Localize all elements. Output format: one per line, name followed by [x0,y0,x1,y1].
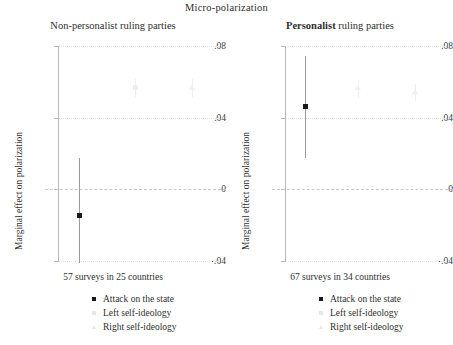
y-axis-label-right: Marginal effect on polarization [241,132,251,250]
y-axis-line-left [58,46,59,262]
legend-item-right-ideology-right: Right self-ideology [227,320,453,334]
panel-title-right: Personalist ruling parties [227,20,453,31]
marker-right-attack-on-the-state [303,104,308,109]
gridline-right-m004 [286,261,453,263]
legend-item-left-ideology-left: Left self-ideology [0,306,226,320]
legend-item-left-ideology-right: Left self-ideology [227,306,453,320]
legend-label-attack-right: Attack on the state [330,294,401,304]
gridline-right-004 [286,118,453,120]
legend-label-left-ideology-left: Left self-ideology [103,308,171,318]
legend-label-attack-left: Attack on the state [103,294,174,304]
legend-square-light-icon [92,311,96,315]
legend-triangle-light-icon [92,325,96,329]
legend-label-right-ideology-right: Right self-ideology [330,322,404,332]
panel-title-right-rest: ruling parties [336,20,394,31]
legend-label-right-ideology-left: Right self-ideology [103,322,177,332]
gridline-right-008 [286,46,453,48]
error-bar-left-attack [79,158,80,263]
panel-footnote-right: 67 surveys in 34 countries [227,272,453,282]
gridline-left-004 [59,118,226,120]
legend-item-attack-left: Attack on the state [0,292,226,306]
panel-title-left-text: Non-personalist ruling parties [50,20,175,31]
legend-square-dark-icon [319,297,323,301]
legend-square-light-icon [319,311,323,315]
zero-reference-line-right [272,189,453,190]
panel-non-personalist: Non-personalist ruling parties Marginal … [0,0,226,345]
gridline-left-m004 [59,261,226,263]
marker-right-right-self-ideology [412,89,418,94]
panel-title-right-bold: Personalist [286,20,336,31]
legend-right: Attack on the state Left self-ideology R… [227,292,453,334]
panel-title-left: Non-personalist ruling parties [0,20,226,31]
y-axis-label-left: Marginal effect on polarization [14,132,24,250]
zero-reference-line-left [45,189,226,190]
panel-footnote-left: 57 surveys in 25 countries [0,272,226,282]
marker-left-attack-on-the-state [77,213,82,218]
legend-left: Attack on the state Left self-ideology R… [0,292,226,334]
marker-left-left-self-ideology [133,85,138,90]
legend-item-right-ideology-left: Right self-ideology [0,320,226,334]
legend-label-left-ideology-right: Left self-ideology [330,308,398,318]
marker-left-right-self-ideology [189,85,195,90]
y-axis-line-right [285,46,286,262]
legend-item-attack-right: Attack on the state [227,292,453,306]
panel-personalist: Personalist ruling parties Marginal effe… [227,0,453,345]
legend-square-dark-icon [92,297,96,301]
marker-right-left-self-ideology [355,85,361,90]
gridline-left-008 [59,46,226,48]
figure-canvas: Micro-polarization Non-personalist rulin… [0,0,453,345]
legend-triangle-light-icon [319,325,323,329]
